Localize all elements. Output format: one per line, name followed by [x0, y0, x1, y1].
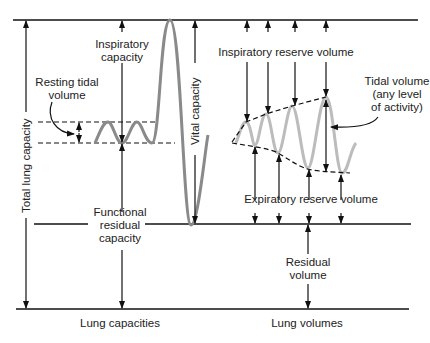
label-resting-tidal-volume-2: volume	[48, 89, 85, 101]
label-frc-2: residual	[100, 219, 140, 231]
label-inspiratory-capacity-1: Inspiratory	[95, 38, 149, 50]
label-tidal-volume-2: (any level	[372, 88, 421, 100]
label-tidal-volume-1: Tidal volume	[365, 75, 430, 87]
label-frc-1: Functional	[93, 206, 146, 218]
activity-upper-envelope	[232, 97, 326, 142]
label-resting-tidal-volume-1: Resting tidal	[35, 76, 98, 88]
label-expiratory-reserve-volume: Expiratory reserve volume	[244, 193, 378, 205]
lung-volumes-diagram: Total lung capacity Inspiratory capacity…	[0, 0, 430, 343]
activity-tidal-wave	[236, 97, 356, 173]
label-inspiratory-capacity-2: capacity	[101, 51, 143, 63]
label-total-lung-capacity: Total lung capacity	[20, 118, 32, 213]
label-inspiratory-reserve-volume: Inspiratory reserve volume	[218, 46, 354, 58]
label-residual-volume-1: Residual	[286, 256, 331, 268]
label-frc-3: capacity	[99, 232, 141, 244]
resting-tidal-pointer	[50, 102, 74, 134]
footer-lung-volumes: Lung volumes	[271, 317, 343, 329]
label-residual-volume-2: volume	[289, 269, 326, 281]
label-vital-capacity: Vital capacity	[189, 77, 201, 145]
tidal-volume-pointer	[331, 117, 378, 127]
footer-lung-capacities: Lung capacities	[80, 317, 160, 329]
label-tidal-volume-3: of activity)	[371, 101, 423, 113]
activity-lower-envelope	[232, 143, 350, 173]
